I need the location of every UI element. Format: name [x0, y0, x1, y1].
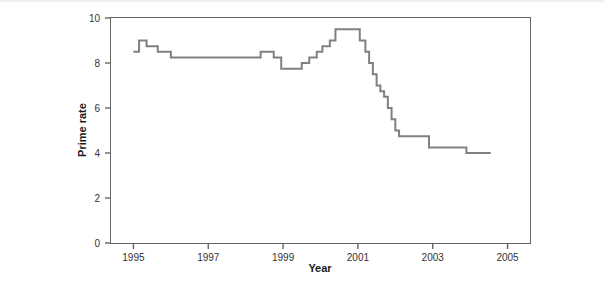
x-tick-label: 1999	[272, 252, 295, 263]
y-tick-label: 2	[94, 193, 100, 204]
x-tick-label: 2003	[422, 252, 445, 263]
y-tick-label: 0	[94, 238, 100, 249]
y-tick-label: 8	[94, 58, 100, 69]
y-axis-ticks: 0246810	[89, 13, 111, 249]
y-tick-label: 4	[94, 148, 100, 159]
x-tick-label: 1995	[122, 252, 145, 263]
x-tick-label: 2005	[496, 252, 519, 263]
prime-rate-line-chart: 0246810 199519971999200120032005 Prime r…	[0, 0, 604, 291]
y-axis-title: Prime rate	[76, 103, 88, 157]
x-tick-label: 1997	[197, 252, 220, 263]
x-axis-title: Year	[308, 262, 332, 274]
chart-svg: 0246810 199519971999200120032005 Prime r…	[0, 0, 604, 291]
x-axis-ticks: 199519971999200120032005	[122, 243, 519, 263]
page-root: 0246810 199519971999200120032005 Prime r…	[0, 0, 604, 291]
y-tick-label: 6	[94, 103, 100, 114]
x-tick-label: 2001	[347, 252, 370, 263]
y-tick-label: 10	[89, 13, 101, 24]
